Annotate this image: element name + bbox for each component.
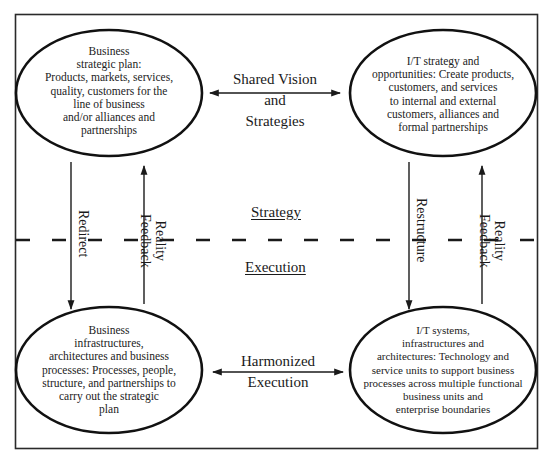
restructure-label: Restructure (414, 198, 429, 263)
harmonized-execution-label: Harmonized Execution (218, 351, 338, 393)
it-strategy-text: I/T strategy and opportunities: Create p… (358, 55, 528, 134)
business-infrastructure-text: Business infrastructures, architectures … (24, 324, 194, 416)
business-strategy-text: Business strategic plan: Products, marke… (24, 45, 194, 137)
execution-section-label: Execution (245, 259, 306, 276)
redirect-label: Redirect (76, 210, 91, 257)
it-infrastructure-text: I/T systems, infrastructures and archite… (350, 324, 536, 416)
alignment-diagram: Business strategic plan: Products, marke… (0, 0, 549, 459)
strategy-section-label: Strategy (251, 204, 301, 221)
shared-vision-label: Shared Vision and Strategies (215, 70, 335, 130)
left-reality-feedback-label: Reality Feedback (138, 214, 168, 268)
right-reality-feedback-label: Reality Feedback (477, 214, 507, 268)
